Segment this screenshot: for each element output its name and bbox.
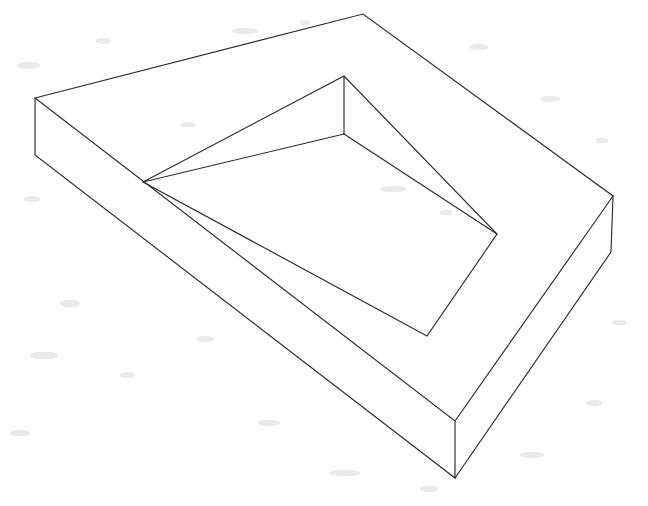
tray-wireframe-figure xyxy=(0,0,648,506)
drawing-canvas: Isometric Open Tray Wireframe Monochrome… xyxy=(0,0,648,506)
figure-faces xyxy=(35,14,613,478)
